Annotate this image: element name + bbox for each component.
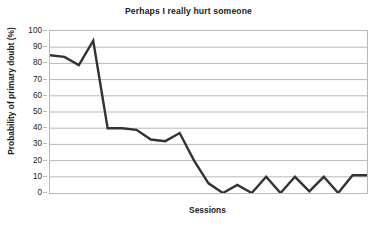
y-tick-mark	[43, 111, 47, 112]
y-tick-mark	[43, 127, 47, 128]
y-tick-label: 60	[33, 90, 42, 99]
y-tick-mark	[43, 176, 47, 177]
y-tick-label: 40	[33, 123, 42, 132]
x-axis-label: Sessions	[49, 205, 366, 215]
plot-area	[49, 30, 368, 194]
y-tick-label: 10	[33, 171, 42, 180]
y-tick-mark	[43, 79, 47, 80]
chart-title: Perhaps I really hurt someone	[0, 6, 377, 16]
data-line	[50, 31, 367, 193]
y-tick-mark	[43, 160, 47, 161]
y-axis-tick-labels: 1009080706050403020100	[0, 30, 47, 192]
y-tick-mark	[43, 46, 47, 47]
chart-figure: Perhaps I really hurt someone Probabilit…	[0, 0, 377, 227]
y-tick-mark	[43, 30, 47, 31]
y-tick-mark	[43, 192, 47, 193]
y-tick-label: 90	[33, 42, 42, 51]
y-tick-mark	[43, 95, 47, 96]
y-tick-mark	[43, 62, 47, 63]
y-tick-label: 20	[33, 155, 42, 164]
y-tick-mark	[43, 143, 47, 144]
y-tick-label: 0	[37, 188, 42, 197]
y-tick-label: 30	[33, 139, 42, 148]
series-line	[50, 41, 367, 193]
y-tick-label: 100	[28, 26, 42, 35]
y-tick-label: 70	[33, 74, 42, 83]
y-tick-label: 80	[33, 58, 42, 67]
y-tick-label: 50	[33, 107, 42, 116]
